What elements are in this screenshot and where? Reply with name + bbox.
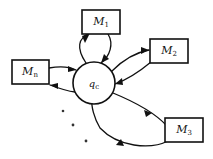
- edge-m2-to-center-arrowhead: [115, 78, 123, 85]
- edge-group-mn: [49, 66, 76, 92]
- machine-node-mn-base: M: [21, 65, 34, 78]
- machine-node-m1-subscript: 1: [104, 20, 108, 28]
- machine-node-m1-base: M: [92, 15, 105, 28]
- edge-center-to-m2-arrowhead: [141, 47, 149, 54]
- machine-node-m3[interactable]: M3: [165, 118, 203, 142]
- edge-group-m2: [112, 47, 151, 85]
- machine-node-m3-subscript: 3: [187, 128, 191, 136]
- machine-node-m2-subscript: 2: [172, 49, 176, 57]
- edge-group-m1: [80, 33, 111, 63]
- machine-node-m1[interactable]: M1: [82, 10, 120, 34]
- ellipsis-dots: [62, 110, 88, 143]
- machine-node-mn-subscript: n: [33, 70, 38, 78]
- central-state-node[interactable]: qc: [73, 62, 115, 104]
- diagram-svg: qc M1 M2 M3 Mn: [0, 0, 213, 159]
- ellipsis-dot-1: [62, 110, 65, 113]
- machine-node-m3-base: M: [175, 123, 188, 136]
- machine-node-m2[interactable]: M2: [150, 39, 188, 63]
- ellipsis-dot-3: [85, 140, 88, 143]
- ellipsis-dot-2: [72, 124, 75, 127]
- machine-node-m2-base: M: [160, 44, 173, 57]
- central-state-subscript: c: [95, 82, 99, 90]
- machine-node-mn[interactable]: Mn: [12, 60, 49, 84]
- diagram-canvas: qc M1 M2 M3 Mn: [0, 0, 213, 159]
- edge-center-to-m3: [113, 93, 167, 126]
- edge-m3-to-center: [92, 99, 168, 146]
